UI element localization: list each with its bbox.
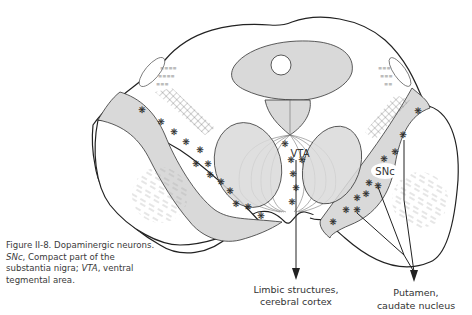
svg-text:❋: ❋ (399, 130, 407, 140)
svg-text:❋: ❋ (206, 170, 214, 180)
svg-text:≡≡≡: ≡≡≡ (380, 73, 393, 79)
cerebral-aqueduct (271, 55, 291, 75)
caption-abbr-vta: VTA (81, 263, 97, 273)
right-dashed-texture (392, 172, 448, 228)
caption-title: Figure II-8. Dopaminergic neurons. (6, 240, 154, 250)
svg-text:❋: ❋ (257, 211, 265, 221)
svg-text:❋: ❋ (391, 147, 399, 157)
putamen-label-line2: caudate nucleus (377, 300, 455, 311)
svg-text:❋: ❋ (170, 127, 178, 137)
svg-text:❋: ❋ (380, 154, 388, 164)
vta-label: VTA (290, 148, 309, 159)
svg-text:❋: ❋ (365, 178, 373, 188)
svg-text:≡≡≡≡: ≡≡≡≡ (158, 73, 175, 79)
svg-text:❋: ❋ (288, 197, 296, 207)
svg-text:❋: ❋ (342, 205, 350, 215)
snc-label: SNc (375, 166, 394, 177)
svg-text:❋: ❋ (204, 159, 212, 169)
svg-text:❋: ❋ (217, 177, 225, 187)
figure-caption: Figure II-8. Dopaminergic neurons. SNc, … (6, 240, 161, 286)
svg-text:❋: ❋ (138, 105, 146, 115)
svg-text:≡≡: ≡≡ (384, 81, 392, 87)
svg-text:❋: ❋ (232, 199, 240, 209)
svg-text:❋: ❋ (329, 217, 337, 227)
limbic-arrowhead (292, 268, 300, 280)
svg-text:❋: ❋ (182, 137, 190, 147)
svg-text:❋: ❋ (353, 193, 361, 203)
svg-text:❋: ❋ (414, 106, 422, 116)
svg-text:❋: ❋ (244, 202, 252, 212)
svg-text:❋: ❋ (374, 181, 382, 191)
svg-text:≡≡≡: ≡≡≡ (156, 81, 169, 87)
putamen-arrowhead (410, 270, 418, 282)
limbic-label-line1: Limbic structures, (253, 284, 338, 295)
svg-text:❋: ❋ (226, 186, 234, 196)
svg-text:≡≡≡: ≡≡≡ (378, 65, 391, 71)
svg-text:≡≡≡≡: ≡≡≡≡ (160, 65, 177, 71)
svg-text:❋: ❋ (362, 189, 370, 199)
svg-text:❋: ❋ (157, 117, 165, 127)
svg-text:❋: ❋ (192, 159, 200, 169)
caption-abbr-snc: SNc (6, 252, 23, 262)
left-dashed-texture (132, 167, 188, 223)
svg-text:❋: ❋ (281, 139, 289, 149)
putamen-label-line1: Putamen, (393, 287, 438, 298)
svg-text:❋: ❋ (196, 145, 204, 155)
limbic-label-line2: cerebral cortex (260, 296, 332, 307)
